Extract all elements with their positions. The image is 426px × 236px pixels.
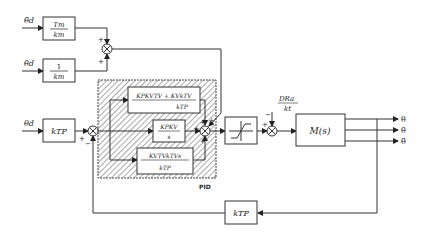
svg-text:+: + xyxy=(194,124,199,131)
svg-text:+: + xyxy=(200,137,205,144)
svg-text:DRa: DRa xyxy=(278,95,294,103)
svg-text:kTP: kTP xyxy=(176,103,189,110)
output-pos: θ xyxy=(401,115,406,124)
svg-text:KPKV: KPKV xyxy=(159,123,178,130)
svg-text:−: − xyxy=(85,140,91,148)
pid-group-label: PID xyxy=(199,183,211,190)
svg-text:+: + xyxy=(98,58,104,66)
svg-text:−: − xyxy=(265,111,271,119)
svg-text:1: 1 xyxy=(57,63,61,71)
svg-text:+: + xyxy=(262,121,268,129)
svg-text:KVTVkTVs: KVTVkTVs xyxy=(148,152,181,159)
label-vel-ref: θ̇d xyxy=(24,59,34,68)
svg-text:km: km xyxy=(54,73,65,81)
label-accel-ref: θ̈d xyxy=(24,16,34,25)
output-accel: θ̈ xyxy=(401,137,406,146)
svg-text:+: + xyxy=(200,118,205,125)
svg-text:KPKVTV + KVkTV: KPKVTV + KVkTV xyxy=(135,92,192,99)
svg-text:kt: kt xyxy=(284,105,291,113)
svg-text:M(s): M(s) xyxy=(309,126,331,136)
svg-text:+: + xyxy=(98,36,104,44)
svg-text:s: s xyxy=(167,133,170,140)
block-diagram: θ̈d θ̇d θd Tm km 1 km kTP KPKVTV + KVkTV… xyxy=(0,0,426,236)
svg-text:kTP: kTP xyxy=(159,164,172,171)
svg-text:kTP: kTP xyxy=(233,209,249,218)
output-vel: θ̇ xyxy=(401,126,406,135)
svg-text:+: + xyxy=(209,116,214,123)
label-pos-ref: θd xyxy=(24,119,34,128)
svg-text:km: km xyxy=(54,31,65,39)
svg-text:kTP: kTP xyxy=(51,127,67,136)
svg-text:Tm: Tm xyxy=(53,21,65,29)
